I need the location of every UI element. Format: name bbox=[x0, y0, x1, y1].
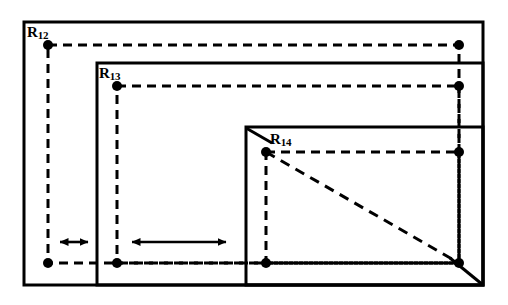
dashed-R13 bbox=[117, 86, 459, 263]
rect-R12 bbox=[24, 22, 483, 285]
dot-R14-bottomright bbox=[454, 258, 464, 268]
dot-R14-topleft bbox=[261, 147, 271, 157]
solid-rectangles-group bbox=[24, 22, 483, 285]
diagonal-dashed bbox=[266, 152, 459, 263]
dot-R13-topleft bbox=[112, 81, 122, 91]
label-R14: R14 bbox=[270, 131, 291, 147]
label-R13: R13 bbox=[99, 65, 120, 81]
label-R12-subscript: 12 bbox=[38, 29, 48, 41]
diagram-svg bbox=[0, 0, 508, 305]
diagonal-solid-upper bbox=[246, 128, 272, 143]
dot-R12-bottomleft bbox=[43, 258, 53, 268]
label-R13-base: R bbox=[99, 65, 110, 81]
label-R12-base: R bbox=[27, 24, 38, 40]
dot-R13-topright bbox=[454, 81, 464, 91]
label-R12: R12 bbox=[27, 24, 48, 40]
dot-R14-topright bbox=[454, 147, 464, 157]
dot-R13-bottomleft bbox=[112, 258, 122, 268]
label-R14-subscript: 14 bbox=[281, 136, 291, 148]
label-R14-base: R bbox=[270, 131, 281, 147]
label-R13-subscript: 13 bbox=[110, 70, 120, 82]
rect-R13 bbox=[97, 63, 483, 285]
dot-R14-bottomleft bbox=[261, 258, 271, 268]
figure-canvas: R12 R13 R14 bbox=[0, 0, 508, 305]
dot-R12-topright bbox=[454, 40, 464, 50]
dot-R12-topleft bbox=[43, 40, 53, 50]
